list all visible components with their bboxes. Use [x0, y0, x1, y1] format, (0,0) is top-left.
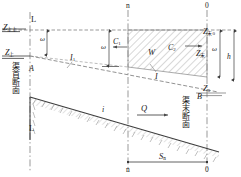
distance-label: Sn: [159, 152, 166, 161]
tail-section-caption: 渠末断面: [180, 96, 188, 128]
channel-bed-line: [30, 97, 219, 158]
water-level-head-upper-label: Z上上: [3, 24, 17, 32]
point-label-A: A: [29, 65, 34, 73]
water-level-tail-upper-label: Z末0: [203, 28, 215, 36]
station-label-n-bottom: n: [126, 166, 130, 174]
subscript: 2: [173, 47, 175, 52]
head-section-caption: 渠首断面: [10, 62, 18, 94]
canal-profile-diagram: n 0 n 0 L L Z上上 Z上 Z末0 Z末 Z0 A B ω ω ω h…: [0, 0, 241, 177]
slope-label-initial: I1: [70, 54, 75, 62]
subscript: 末: [200, 53, 205, 58]
storage-volume-label: W: [148, 48, 155, 57]
datum-label-lower: L: [29, 124, 34, 133]
celerity-label-left: C1: [113, 38, 121, 46]
celerity-label-right: C2: [168, 44, 176, 52]
water-level-tail-mid-label: Z末: [196, 50, 205, 58]
subscript: n: [163, 155, 166, 161]
subscript: 1: [73, 57, 75, 62]
datum-label-upper: L: [31, 15, 36, 24]
water-level-head-lower-label: Z上: [5, 49, 14, 57]
station-label-0-bottom: 0: [205, 166, 209, 174]
subscript: 1: [118, 41, 120, 46]
subscript: 末0: [207, 31, 214, 36]
area-label-head: ω: [40, 36, 45, 43]
station-label-0-top: 0: [205, 2, 209, 10]
subscript: 上上: [7, 27, 17, 32]
slope-label-final: I: [155, 73, 158, 81]
subscript: 上: [9, 52, 14, 57]
subscript: 0: [207, 88, 209, 93]
depth-label-tail: h: [227, 53, 231, 61]
station-label-n-top: n: [126, 2, 130, 10]
water-level-tail-bed-label: Z0: [203, 85, 210, 93]
area-label-middle: ω: [101, 44, 106, 51]
point-label-B: B: [197, 93, 202, 101]
bed-slope-label: i: [102, 106, 104, 114]
area-label-tail: ω: [212, 46, 217, 53]
discharge-label: Q: [141, 104, 147, 113]
